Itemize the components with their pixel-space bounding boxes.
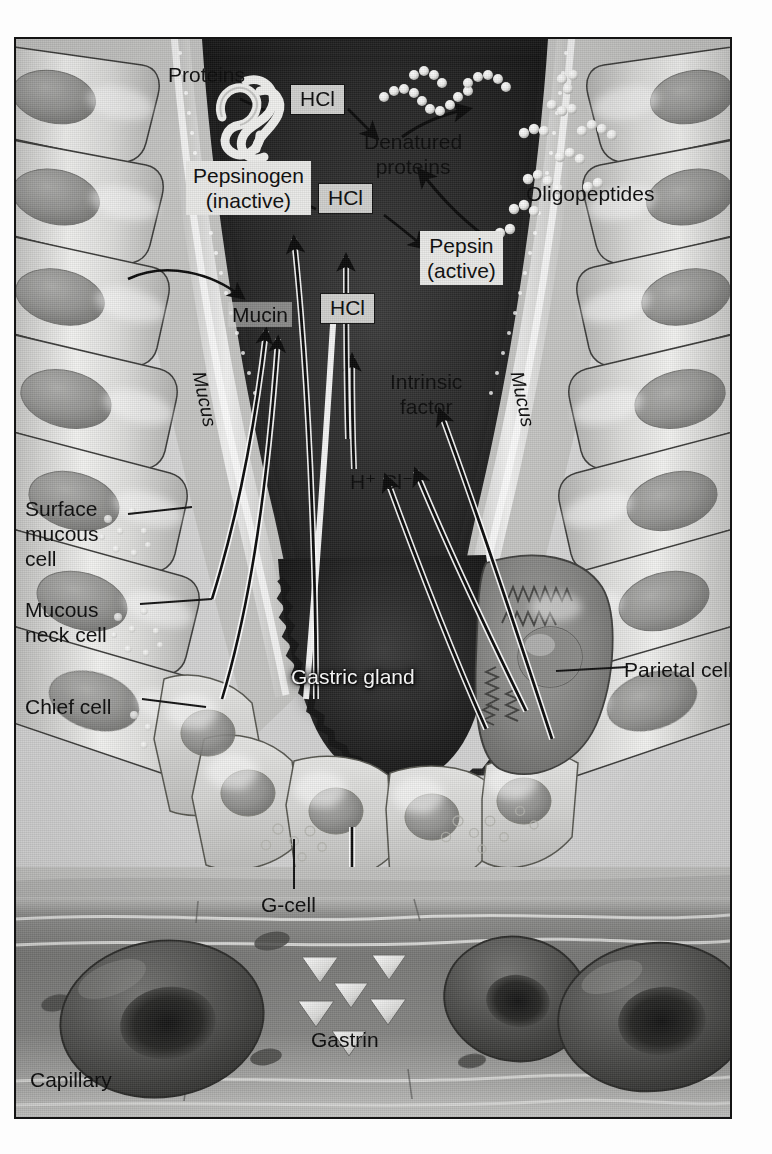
label-surface-mucous-cell: Surface mucous cell — [25, 496, 99, 571]
label-denatured-proteins: Denatured proteins — [364, 129, 462, 179]
label-chief-cell: Chief cell — [25, 694, 111, 719]
label-pepsinogen: Pepsinogen (inactive) — [186, 161, 311, 215]
label-parietal-cell: Parietal cell — [624, 657, 732, 682]
label-pepsin: Pepsin (active) — [420, 231, 503, 285]
label-gastric-gland: Gastric gland — [291, 664, 415, 689]
label-mucous-neck-cell: Mucous neck cell — [25, 597, 107, 647]
hcl-box-bottom: HCl — [320, 293, 375, 324]
label-capillary: Capillary — [30, 1067, 112, 1092]
label-oligopeptides: Oligopeptides — [526, 181, 654, 206]
hcl-box-top: HCl — [290, 84, 345, 115]
label-intrinsic-factor: Intrinsic factor — [390, 369, 462, 419]
label-gastrin: Gastrin — [311, 1027, 379, 1052]
label-proteins: Proteins — [168, 62, 245, 87]
label-mucin: Mucin — [228, 302, 292, 327]
capillary — [16, 897, 730, 1117]
label-ions: H⁺ Cl⁻ — [350, 469, 413, 494]
gastric-gland-figure: Proteins HCl Denatured proteins Oligopep… — [14, 37, 732, 1119]
label-g-cell: G-cell — [261, 892, 316, 917]
figure-page: Proteins HCl Denatured proteins Oligopep… — [0, 0, 772, 1154]
hcl-box-middle: HCl — [318, 183, 373, 214]
